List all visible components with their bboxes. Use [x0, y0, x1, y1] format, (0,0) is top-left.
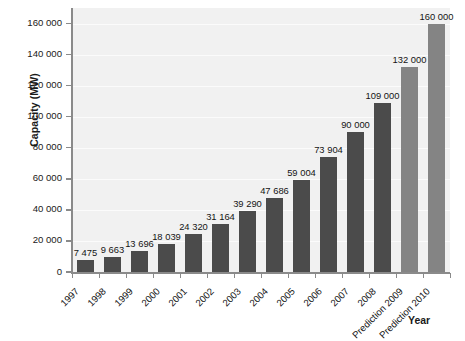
y-axis-tick-label: 20 000: [0, 234, 62, 245]
bar-2006[interactable]: [320, 157, 337, 272]
y-axis-tick-label: 160 000: [0, 17, 62, 28]
x-axis-category-label: 1997: [58, 286, 81, 309]
x-axis-category-label: 2006: [301, 286, 324, 309]
bar-2004[interactable]: [266, 198, 283, 272]
x-axis-title: Year: [408, 314, 430, 326]
x-axis-category-label: 1998: [85, 286, 108, 309]
plot-area: [72, 8, 450, 272]
x-axis-tick: [261, 273, 262, 278]
x-axis-tick: [180, 273, 181, 278]
y-axis-line: [71, 8, 73, 273]
y-axis-tick-label: 40 000: [0, 203, 62, 214]
y-axis-tick-label: 100 000: [0, 110, 62, 121]
bar-prediction-2009[interactable]: [401, 67, 418, 272]
x-axis-tick: [99, 273, 100, 278]
y-axis-tick-label: 0: [0, 266, 62, 277]
bar-prediction-2010[interactable]: [428, 24, 445, 272]
y-axis-tick: [66, 116, 71, 117]
y-axis-tick: [66, 240, 71, 241]
x-axis-category-label: 2000: [139, 286, 162, 309]
x-axis-tick: [450, 273, 451, 278]
x-axis-category-label: 2003: [220, 286, 243, 309]
bar-2002[interactable]: [212, 224, 229, 272]
gridline: [72, 117, 450, 118]
bar-2001[interactable]: [185, 234, 202, 272]
bar-1997[interactable]: [77, 260, 94, 272]
y-axis-tick: [66, 54, 71, 55]
gridline: [72, 210, 450, 211]
x-axis-category-label: 2002: [193, 286, 216, 309]
x-axis-tick: [315, 273, 316, 278]
x-axis-category-label: 2008: [355, 286, 378, 309]
bar-2007[interactable]: [347, 132, 364, 272]
x-axis-category-label: 2001: [166, 286, 189, 309]
y-axis-tick: [66, 85, 71, 86]
x-axis-category-label: 2007: [328, 286, 351, 309]
x-axis-tick: [153, 273, 154, 278]
y-axis-tick-label: 120 000: [0, 79, 62, 90]
x-axis-category-label: 2004: [247, 286, 270, 309]
y-axis-tick: [66, 271, 71, 272]
gridline: [72, 24, 450, 25]
x-axis-tick: [288, 273, 289, 278]
y-axis-tick-label: 60 000: [0, 172, 62, 183]
bar-2008[interactable]: [374, 103, 391, 272]
x-axis-tick: [369, 273, 370, 278]
y-axis-tick-label: 140 000: [0, 48, 62, 59]
gridline: [72, 179, 450, 180]
x-axis-category-label: 1999: [112, 286, 135, 309]
x-axis-tick: [342, 273, 343, 278]
bar-2000[interactable]: [158, 244, 175, 272]
y-axis-tick: [66, 23, 71, 24]
gridline: [72, 86, 450, 87]
y-axis-tick: [66, 178, 71, 179]
y-axis-tick: [66, 209, 71, 210]
bar-1998[interactable]: [104, 257, 121, 272]
bar-1999[interactable]: [131, 251, 148, 272]
x-axis-tick: [396, 273, 397, 278]
bar-2003[interactable]: [239, 211, 256, 272]
bar-2005[interactable]: [293, 180, 310, 272]
x-axis-tick: [423, 273, 424, 278]
x-axis-tick: [234, 273, 235, 278]
x-axis-tick: [72, 273, 73, 278]
y-axis-tick: [66, 147, 71, 148]
x-axis-tick: [126, 273, 127, 278]
x-axis-category-label: 2005: [274, 286, 297, 309]
y-axis-tick-label: 80 000: [0, 141, 62, 152]
bar-value-label: 160 000: [407, 11, 465, 22]
gridline: [72, 148, 450, 149]
bar-chart: Capacity (MW) Year 020 00040 00060 00080…: [0, 0, 465, 341]
x-axis-tick: [207, 273, 208, 278]
